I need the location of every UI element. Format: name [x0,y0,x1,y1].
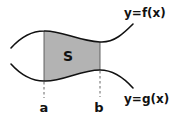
region-label: S [63,48,73,64]
left-bound-label: a [40,100,49,115]
upper-curve-label: y=f(x) [124,6,166,20]
lower-curve-label: y=g(x) [124,92,169,106]
area-between-curves-diagram: S y=f(x) y=g(x) a b [0,0,179,129]
right-bound-label: b [94,100,103,115]
